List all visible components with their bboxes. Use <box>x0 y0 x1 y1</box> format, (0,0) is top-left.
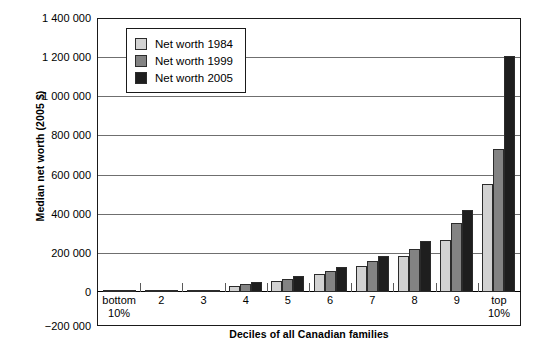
bar <box>356 266 367 292</box>
bar <box>367 261 378 292</box>
category-separator-tick <box>478 283 479 292</box>
bar <box>103 290 114 292</box>
y-tick-label: 1 200 000 <box>13 52 91 63</box>
legend-label: Net worth 1999 <box>155 55 233 67</box>
bar <box>167 290 178 292</box>
bar <box>251 282 262 292</box>
legend-swatch-1999 <box>135 55 147 67</box>
legend-label: Net worth 1984 <box>155 38 233 50</box>
bar <box>451 223 462 292</box>
y-tick-label: 200 000 <box>13 247 91 258</box>
legend-label: Net worth 2005 <box>155 72 233 84</box>
x-tick-label: 2 <box>140 294 182 320</box>
x-tick-label: 8 <box>393 294 435 320</box>
x-tick-label: 3 <box>182 294 224 320</box>
category-separator-tick <box>182 283 183 292</box>
x-tick-label: 9 <box>436 294 478 320</box>
bar <box>198 290 209 292</box>
bar <box>325 271 336 292</box>
legend-item: Net worth 1984 <box>135 35 233 52</box>
y-tick-label: 600 000 <box>13 169 91 180</box>
x-tick-label: 5 <box>267 294 309 320</box>
y-axis-tick-labels: 1 400 0001 200 0001 000 000800 000600 00… <box>13 0 91 359</box>
bar-group <box>436 19 478 292</box>
bar <box>398 256 409 292</box>
y-tick-label: 1 000 000 <box>13 91 91 102</box>
legend-swatch-2005 <box>135 72 147 84</box>
bar <box>271 281 282 292</box>
x-axis-tick-labels: bottom10%23456789top10% <box>98 294 520 320</box>
bar <box>229 286 240 292</box>
bar <box>409 249 420 292</box>
chart-legend: Net worth 1984Net worth 1999Net worth 20… <box>126 28 246 93</box>
bar <box>209 290 220 292</box>
bar <box>440 240 451 292</box>
bar <box>240 284 251 292</box>
x-tick-label: top10% <box>478 294 520 320</box>
bar <box>282 279 293 292</box>
bar <box>125 290 136 292</box>
x-tick-label: 4 <box>225 294 267 320</box>
legend-item: Net worth 1999 <box>135 52 233 69</box>
category-separator-tick <box>267 283 268 292</box>
bar <box>145 290 156 292</box>
y-tick-label: 800 000 <box>13 130 91 141</box>
category-separator-tick <box>225 283 226 292</box>
x-tick-label: 7 <box>351 294 393 320</box>
bar <box>378 256 389 292</box>
bar-group <box>267 19 309 292</box>
net-worth-bar-chart: Median net worth (2005 $) 1 400 0001 200… <box>0 0 538 359</box>
bar <box>314 274 325 292</box>
bar <box>493 149 504 292</box>
bar <box>482 184 493 292</box>
category-separator-tick <box>140 283 141 292</box>
bar-group <box>351 19 393 292</box>
y-tick-label: 0 <box>13 287 91 298</box>
x-tick-label: bottom10% <box>98 294 140 320</box>
legend-item: Net worth 2005 <box>135 69 233 86</box>
bar-group <box>478 19 520 292</box>
bar <box>336 267 347 292</box>
legend-swatch-1984 <box>135 38 147 50</box>
category-separator-tick <box>309 283 310 292</box>
bar-group <box>309 19 351 292</box>
x-axis-title: Deciles of all Canadian families <box>97 328 521 340</box>
bar <box>156 290 167 292</box>
bar <box>420 241 431 292</box>
x-tick-label: 6 <box>309 294 351 320</box>
y-tick-label: −200 000 <box>13 321 91 332</box>
bar <box>462 210 473 292</box>
bar <box>187 290 198 292</box>
category-separator-tick <box>393 283 394 292</box>
y-tick-label: 400 000 <box>13 208 91 219</box>
bar <box>114 290 125 292</box>
y-tick-label: 1 400 000 <box>13 13 91 24</box>
bar <box>504 56 515 292</box>
category-separator-tick <box>351 283 352 292</box>
category-separator-tick <box>436 283 437 292</box>
bar-group <box>393 19 435 292</box>
bar <box>293 276 304 292</box>
